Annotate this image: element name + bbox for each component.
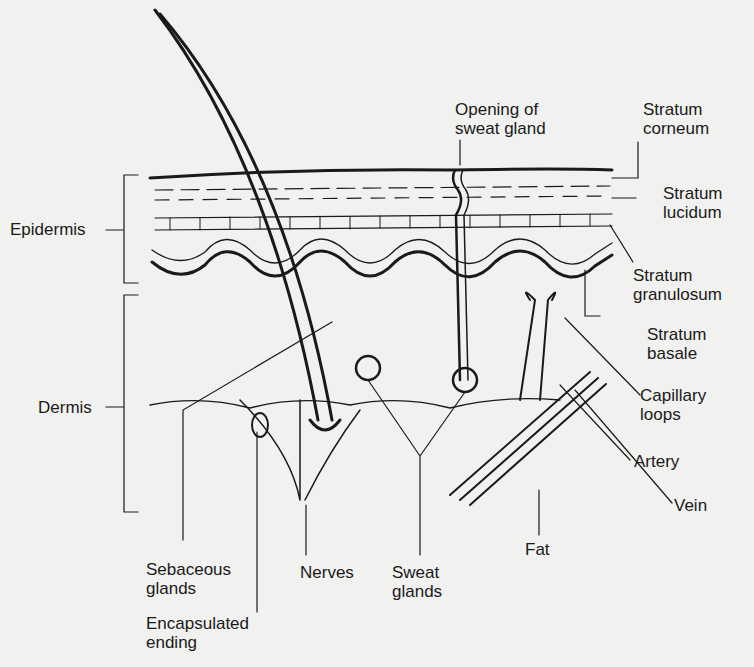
label-stratum-granulosum: Stratum granulosum [633,266,722,304]
label-stratum-corneum: Stratum corneum [643,100,709,138]
label-opening-of-sweat-gland: Opening of sweat gland [455,100,546,138]
skin-diagram: Opening of sweat gland Stratum corneum S… [0,0,754,667]
label-sebaceous-glands: Sebaceous glands [146,560,231,598]
label-dermis: Dermis [38,398,92,417]
label-stratum-basale: Stratum basale [647,325,707,363]
label-artery: Artery [634,452,679,471]
label-encapsulated-ending: Encapsulated ending [146,614,249,652]
label-sweat-glands: Sweat glands [392,563,442,601]
label-stratum-lucidum: Stratum lucidum [663,184,723,222]
label-capillary-loops: Capillary loops [640,386,706,424]
label-nerves: Nerves [300,563,354,582]
label-epidermis: Epidermis [10,220,86,239]
label-fat: Fat [525,540,550,559]
label-vein: Vein [674,496,707,515]
skin-illustration [0,0,754,667]
